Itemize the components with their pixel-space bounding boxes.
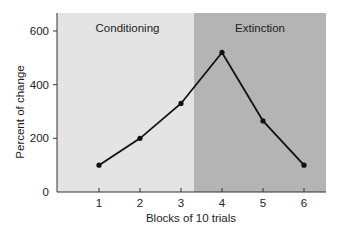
conditioning-region (57, 13, 194, 192)
conditioning-label: Conditioning (96, 22, 160, 34)
data-point-marker (137, 136, 142, 141)
data-point-marker (96, 163, 101, 168)
x-tick-label: 6 (301, 197, 307, 209)
x-axis-label: Blocks of 10 trials (146, 212, 236, 224)
y-tick-label: 200 (30, 132, 49, 144)
data-point-marker (260, 118, 265, 123)
line-chart: ConditioningExtinction 0200400600 123456… (0, 0, 341, 234)
extinction-label: Extinction (235, 22, 285, 34)
y-axis: 0200400600 (30, 13, 57, 198)
x-tick-label: 5 (260, 197, 266, 209)
x-tick-label: 4 (219, 197, 226, 209)
x-tick-label: 1 (96, 197, 102, 209)
y-tick-label: 0 (43, 186, 49, 198)
data-point-marker (178, 101, 183, 106)
data-point-marker (301, 163, 306, 168)
y-tick-label: 600 (30, 25, 49, 37)
x-tick-label: 2 (137, 197, 143, 209)
y-axis-label: Percent of change (14, 65, 26, 158)
y-tick-label: 400 (30, 79, 49, 91)
data-point-marker (219, 50, 224, 55)
x-tick-label: 3 (178, 197, 184, 209)
